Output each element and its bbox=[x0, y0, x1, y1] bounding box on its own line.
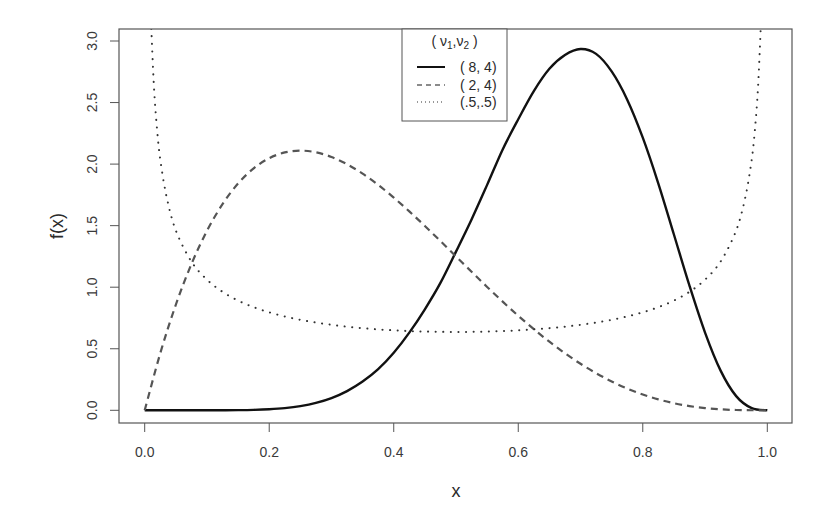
legend-title: ( ν1,ν2 ) bbox=[431, 33, 477, 51]
x-tick-label: 0.8 bbox=[633, 444, 653, 460]
y-axis: 0.00.51.01.52.02.53.0 bbox=[84, 31, 119, 420]
y-tick-label: 1.0 bbox=[84, 277, 100, 297]
legend-title-part: ( ν bbox=[431, 33, 447, 49]
y-tick-label: 1.5 bbox=[84, 216, 100, 236]
x-tick-label: 0.2 bbox=[259, 444, 279, 460]
beta-density-chart: 0.00.20.40.60.81.0 0.00.51.01.52.02.53.0… bbox=[0, 0, 833, 519]
y-tick-label: 3.0 bbox=[84, 31, 100, 51]
y-tick-label: 2.5 bbox=[84, 93, 100, 113]
legend-label-2-4: ( 2, 4) bbox=[460, 77, 497, 93]
x-tick-label: 0.0 bbox=[135, 444, 155, 460]
series-line-2-4 bbox=[145, 151, 768, 411]
legend-title-part: ,ν bbox=[453, 33, 464, 49]
x-axis: 0.00.20.40.60.81.0 bbox=[135, 423, 777, 460]
y-tick-label: 0.5 bbox=[84, 339, 100, 359]
y-axis-title: f(x) bbox=[47, 213, 67, 239]
x-tick-label: 0.6 bbox=[509, 444, 529, 460]
y-tick-label: 0.0 bbox=[84, 400, 100, 420]
legend-label-05-05: (.5,.5) bbox=[460, 94, 497, 110]
y-tick-label: 2.0 bbox=[84, 154, 100, 174]
x-axis-title: x bbox=[452, 481, 461, 501]
x-tick-label: 1.0 bbox=[758, 444, 778, 460]
legend-title-part: ) bbox=[469, 33, 478, 49]
x-tick-label: 0.4 bbox=[384, 444, 404, 460]
legend: ( ν1,ν2 ) ( 8, 4) ( 2, 4) (.5,.5) bbox=[402, 29, 507, 121]
legend-label-8-4: ( 8, 4) bbox=[460, 59, 497, 75]
